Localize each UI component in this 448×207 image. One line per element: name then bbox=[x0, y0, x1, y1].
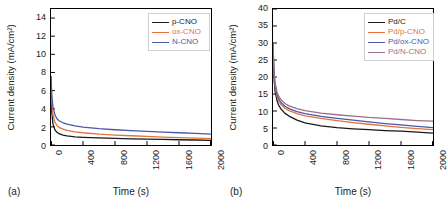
y-axis-ticks-a: 02468101214 bbox=[18, 8, 50, 146]
legend-swatch-icon bbox=[368, 52, 385, 53]
x-tick-label: 400 bbox=[86, 150, 96, 165]
y-tick-label: 40 bbox=[258, 3, 268, 13]
legend-item: Pd/N-CNO bbox=[368, 47, 429, 57]
x-tick-label: 0 bbox=[276, 150, 286, 155]
x-tick-label: 1600 bbox=[184, 150, 194, 170]
x-tick-label: 2000 bbox=[438, 150, 448, 170]
y-tick-label: 35 bbox=[258, 20, 268, 30]
panel-a: Current density (mA/cm²) 02468101214 040… bbox=[0, 0, 222, 207]
panel-b: Current density (mA/cm²) 051015202530354… bbox=[222, 0, 444, 207]
legend-label: N-CNO bbox=[172, 37, 198, 47]
y-tick-label: 25 bbox=[258, 55, 268, 65]
legend-label: Pd/N-CNO bbox=[388, 47, 426, 57]
panel-label-b: (b) bbox=[230, 186, 242, 197]
legend-label: Pd/C bbox=[388, 17, 406, 27]
y-axis-ticks-b: 0510152025303540 bbox=[240, 8, 272, 146]
x-tick-label: 1600 bbox=[406, 150, 416, 170]
legend-swatch-icon bbox=[368, 32, 385, 33]
y-tick-label: 0 bbox=[263, 141, 268, 151]
legend-a: p-CNOox-CNON-CNO bbox=[148, 13, 210, 51]
legend-label: p-CNO bbox=[172, 17, 197, 27]
y-tick-label: 15 bbox=[258, 89, 268, 99]
x-tick-label: 1200 bbox=[151, 150, 161, 170]
x-axis-title-a: Time (s) bbox=[50, 186, 212, 197]
legend-swatch-icon bbox=[368, 42, 385, 43]
legend-swatch-icon bbox=[152, 22, 169, 23]
legend-item: Pd/p-CNO bbox=[368, 27, 429, 37]
legend-swatch-icon bbox=[152, 32, 169, 33]
x-tick-label: 400 bbox=[308, 150, 318, 165]
y-tick-label: 2 bbox=[41, 123, 46, 133]
x-tick-label: 800 bbox=[119, 150, 129, 165]
legend-b: Pd/CPd/p-CNOPd/ox-CNOPd/N-CNO bbox=[364, 13, 434, 61]
y-tick-label: 8 bbox=[41, 67, 46, 77]
legend-item: p-CNO bbox=[152, 17, 205, 27]
x-tick-label: 800 bbox=[341, 150, 351, 165]
legend-swatch-icon bbox=[152, 42, 169, 43]
legend-item: Pd/C bbox=[368, 17, 429, 27]
y-tick-label: 4 bbox=[41, 104, 46, 114]
y-tick-label: 20 bbox=[258, 72, 268, 82]
y-tick-label: 12 bbox=[36, 31, 46, 41]
y-tick-label: 30 bbox=[258, 38, 268, 48]
y-tick-label: 10 bbox=[36, 49, 46, 59]
x-axis-title-b: Time (s) bbox=[272, 186, 434, 197]
y-tick-label: 10 bbox=[258, 107, 268, 117]
legend-item: Pd/ox-CNO bbox=[368, 37, 429, 47]
legend-label: Pd/ox-CNO bbox=[388, 37, 429, 47]
y-axis-title-b: Current density (mA/cm²) bbox=[224, 8, 240, 146]
legend-swatch-icon bbox=[368, 22, 385, 23]
x-tick-label: 1200 bbox=[373, 150, 383, 170]
line-series bbox=[51, 76, 211, 134]
legend-label: Pd/p-CNO bbox=[388, 27, 425, 37]
y-axis-title-a: Current density (mA/cm²) bbox=[2, 8, 18, 146]
y-tick-label: 0 bbox=[41, 141, 46, 151]
y-tick-label: 5 bbox=[263, 124, 268, 134]
legend-label: ox-CNO bbox=[172, 27, 201, 37]
x-tick-label: 0 bbox=[54, 150, 64, 155]
y-tick-label: 14 bbox=[36, 12, 46, 22]
y-tick-label: 6 bbox=[41, 86, 46, 96]
legend-item: ox-CNO bbox=[152, 27, 205, 37]
legend-item: N-CNO bbox=[152, 37, 205, 47]
panel-label-a: (a) bbox=[8, 186, 20, 197]
line-series bbox=[51, 77, 211, 139]
